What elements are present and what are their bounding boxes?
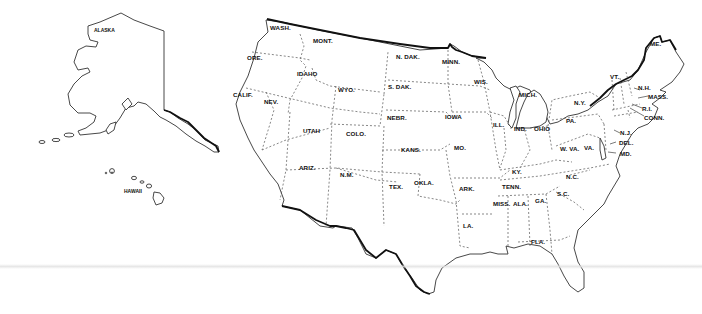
label-wis: WIS. bbox=[474, 78, 488, 85]
hawaii-region: HAWAII bbox=[105, 169, 164, 205]
label-ny: N.Y. bbox=[574, 99, 586, 106]
label-ndak: N. DAK. bbox=[396, 53, 420, 60]
label-conn: CONN. bbox=[644, 114, 665, 121]
label-md: MD. bbox=[620, 150, 632, 157]
label-hawaii: HAWAII bbox=[124, 188, 142, 194]
label-wva: W. VA. bbox=[560, 145, 580, 152]
label-okla: OKLA. bbox=[414, 179, 434, 186]
label-mich: MICH. bbox=[519, 91, 537, 98]
hawaii-island-molokai bbox=[140, 181, 144, 183]
label-alaska: ALASKA bbox=[94, 27, 115, 33]
label-colo: COLO. bbox=[346, 130, 366, 137]
label-ga: GA. bbox=[535, 197, 546, 204]
label-va: VA. bbox=[584, 144, 594, 151]
label-wash: WASH. bbox=[270, 24, 291, 31]
label-mo: MO. bbox=[454, 144, 466, 151]
label-nev: NEV. bbox=[264, 98, 278, 105]
label-mont: MONT. bbox=[313, 37, 333, 44]
label-nebr: NEBR. bbox=[387, 114, 407, 121]
aleutian-island bbox=[64, 133, 74, 137]
label-ohio: OHIO bbox=[534, 125, 550, 132]
label-ind: IND. bbox=[514, 125, 527, 132]
label-idaho: IDAHO bbox=[297, 70, 318, 77]
label-calif: CALIF. bbox=[233, 91, 253, 98]
label-tex: TEX. bbox=[389, 183, 403, 190]
label-fla: FLA. bbox=[531, 238, 545, 245]
label-kans: KANS. bbox=[401, 146, 421, 153]
us-outline-map: ALASKA HAWAII bbox=[0, 0, 702, 314]
hawaii-island-big bbox=[153, 192, 164, 205]
aleutian-island bbox=[39, 141, 45, 144]
label-wyo: WYO. bbox=[338, 86, 355, 93]
label-utah: UTAH bbox=[303, 127, 321, 134]
label-me: ME. bbox=[650, 40, 661, 47]
aleutian-island bbox=[52, 138, 60, 141]
label-minn: MINN. bbox=[442, 58, 460, 65]
label-ark: ARK. bbox=[459, 185, 475, 192]
label-mass: MASS. bbox=[648, 93, 668, 100]
map-canvas: ALASKA HAWAII bbox=[0, 0, 702, 314]
contiguous-us: WASH. ORE. CALIF. IDAHO NEV. MONT. WYO. … bbox=[233, 19, 684, 294]
label-vt: VT. bbox=[610, 73, 619, 80]
label-ariz: ARIZ. bbox=[299, 164, 316, 171]
label-sdak: S. DAK. bbox=[388, 83, 412, 90]
label-ill: ILL. bbox=[493, 121, 505, 128]
label-nc: N.C. bbox=[566, 173, 579, 180]
label-del: DEL. bbox=[619, 139, 634, 146]
alaska-region: ALASKA bbox=[39, 13, 219, 152]
label-sc: S.C. bbox=[557, 190, 570, 197]
label-nh: N.H. bbox=[638, 84, 651, 91]
label-pa: PA. bbox=[566, 117, 576, 124]
label-nj: N.J. bbox=[620, 129, 632, 136]
label-ala: ALA. bbox=[513, 200, 528, 207]
label-ore: ORE. bbox=[247, 54, 263, 61]
label-nm: N.M. bbox=[340, 171, 354, 178]
label-ky: KY. bbox=[512, 168, 522, 175]
hawaii-island-maui bbox=[146, 184, 151, 188]
label-tenn: TENN. bbox=[502, 183, 521, 190]
label-miss: MISS. bbox=[493, 200, 511, 207]
label-iowa: IOWA bbox=[445, 113, 462, 120]
label-la: LA. bbox=[463, 222, 473, 229]
label-ri: R.I. bbox=[642, 105, 652, 112]
hawaii-island-oahu bbox=[132, 176, 137, 179]
